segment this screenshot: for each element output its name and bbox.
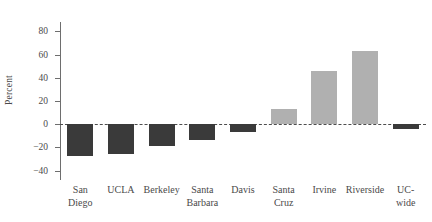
bar-slot — [304, 22, 345, 180]
y-axis-tick-label: 0 — [12, 119, 48, 129]
x-axis-tick-label-line2: Cruz — [263, 197, 304, 210]
x-axis-tick-label-line1: Irvine — [312, 184, 336, 195]
x-axis-tick-label-line2: wide — [385, 197, 426, 210]
x-axis-tick-label-line1: Davis — [231, 184, 254, 195]
x-axis-tick-label-line1: UC- — [397, 184, 414, 195]
bar-slot — [182, 22, 223, 180]
y-axis-tick-label: 80 — [12, 26, 48, 36]
x-axis-tick-label-line1: Riverside — [346, 184, 384, 195]
x-axis-tick-label-line1: Santa — [273, 184, 295, 195]
x-axis-tick-label: Irvine — [304, 184, 345, 197]
bar-slot — [223, 22, 264, 180]
y-axis-tick-label: 60 — [12, 50, 48, 60]
x-axis-tick-label-line1: UCLA — [107, 184, 134, 195]
x-axis-tick-label-line1: San — [73, 184, 88, 195]
bar — [189, 124, 215, 140]
bar-slot — [263, 22, 304, 180]
x-axis-tick-label: Riverside — [345, 184, 386, 197]
x-axis-tick-label: UCLA — [101, 184, 142, 197]
x-axis-tick-label: SanDiego — [60, 184, 101, 209]
bar-chart: Percent 806040200−20−40 SanDiegoUCLABerk… — [0, 0, 432, 222]
x-axis-labels: SanDiegoUCLABerkeleySantaBarbaraDavisSan… — [60, 184, 426, 222]
bar — [230, 124, 256, 132]
bar — [67, 124, 93, 155]
x-axis-tick-label: SantaBarbara — [182, 184, 223, 209]
bar — [149, 124, 175, 146]
bar — [271, 109, 297, 124]
bar — [393, 124, 419, 129]
x-axis-tick-label-line2: Barbara — [182, 197, 223, 210]
bar — [352, 51, 378, 124]
y-axis-tick-label: −20 — [12, 142, 48, 152]
y-axis-tick-label: 40 — [12, 73, 48, 83]
x-axis-tick-label-line1: Santa — [191, 184, 213, 195]
x-axis-tick-label: Davis — [223, 184, 264, 197]
x-axis-tick-label-line2: Diego — [60, 197, 101, 210]
y-axis-tick-label: −40 — [12, 166, 48, 176]
bar-slot — [385, 22, 426, 180]
x-axis-tick-label-line1: Berkeley — [144, 184, 180, 195]
bar-slot — [141, 22, 182, 180]
bar — [108, 124, 134, 154]
bar-slot — [101, 22, 142, 180]
x-axis-tick-label: UC-wide — [385, 184, 426, 209]
bar-slot — [345, 22, 386, 180]
x-axis-tick-label: Berkeley — [141, 184, 182, 197]
y-axis-tick-label: 20 — [12, 96, 48, 106]
bar — [311, 71, 337, 124]
bar-series — [60, 22, 426, 180]
plot-area: 806040200−20−40 — [60, 22, 426, 180]
x-axis-tick-label: SantaCruz — [263, 184, 304, 209]
bar-slot — [60, 22, 101, 180]
